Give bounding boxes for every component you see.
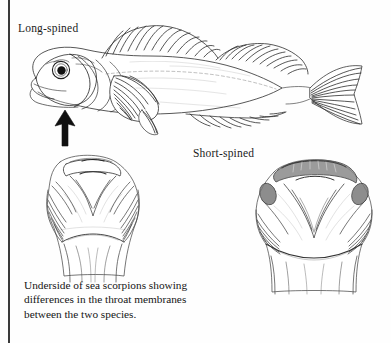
figure-caption: Underside of sea scorpions showing diffe… (24, 278, 274, 321)
label-short-spined: Short-spined (193, 147, 254, 159)
caption-line-3: between the two species. (24, 307, 274, 321)
label-long-spined: Long-spined (18, 22, 78, 34)
arrow-pointer-icon (48, 108, 88, 148)
caption-line-2: differences in the throat membranes (24, 292, 274, 306)
long-spined-throat-underside (18, 150, 168, 285)
figure-page: Long-spined Short-spined Underside of se… (0, 0, 391, 343)
caption-line-1: Underside of sea scorpions showing (24, 278, 274, 292)
short-spined-throat-underside (238, 150, 391, 295)
